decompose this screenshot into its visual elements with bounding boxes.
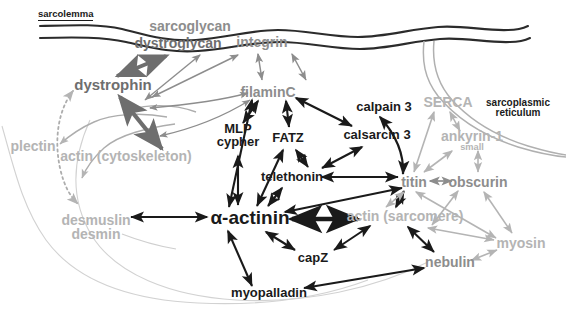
node-actin-sarcomere: actin (sarcomere) [347,209,464,223]
edge-alphaactinin-myopalladin [228,231,252,286]
edge-actinsarcomere-nebulin [408,227,434,252]
node-sarcoglycan: sarcoglycan [149,19,231,33]
node-ankyrin-1-small: ankyrin-1small [441,129,503,153]
edge-filaminc-alphaactinin [229,100,252,207]
edge-integrin-filaminc-right [292,54,306,80]
edge-obscurin-myosin [484,192,512,233]
node-myosin: myosin [496,236,545,250]
edge-filaminc-calsarcin3 [296,98,352,126]
protein-interaction-diagram: sarcolemma sarcoglycan dystroglycan inte… [0,0,566,325]
node-dystroglycan: dystroglycan [134,36,221,50]
node-myopalladin: myopalladin [231,286,307,299]
node-actin-cytoskeleton: actin (cytoskeleton) [60,149,191,163]
node-mlp-cypher: MLP cypher [217,122,260,149]
node-calpain-3: calpain 3 [356,100,412,113]
edge-telethonin-alphaactinin [268,188,282,206]
structure-sarcoplasmic-reticulum: sarcoplasmic reticulum [486,98,550,118]
edge-alphaactinin-capz [266,232,295,250]
edge-nebulin-myopalladin [304,268,424,288]
node-plectin: plectin [10,139,55,153]
edge-integrin-actin-cytoskeleton [152,55,238,97]
node-alpha-actinin: α-actinin [210,208,289,227]
edge-serca-titin [414,112,434,172]
edge-dystrophin-actin-cytoskeleton [120,97,162,149]
node-titin: titin [401,175,427,189]
edge-filaminc-fatz [286,101,289,127]
node-filaminc: filaminC [240,85,295,99]
node-fatz: FATZ [272,131,304,144]
cytoskeleton-link-curves [60,106,196,178]
edge-actinsarcomere-myosin [428,228,494,240]
edge-calpain3-titin [380,117,403,174]
edge-dystroglycan-dystrophin [117,56,166,76]
node-telethonin: telethonin [261,170,323,183]
edge-integrin-filaminc [258,54,262,80]
edge-nebulin-myosin [472,250,497,260]
node-capz: capZ [298,251,328,264]
node-integrin: integrin [236,35,287,49]
node-dystrophin: dystrophin [74,77,152,92]
node-nebulin: nebulin [425,255,475,269]
node-desmuslin-desmin: desmuslin desmin [61,213,130,242]
edge-actinsarcomere-capz [334,226,370,250]
node-serca: SERCA [423,95,472,109]
node-obscurin: obscurin [448,175,507,189]
ankyrin-base: ankyrin-1 [441,129,503,143]
node-calsarcin-3: calsarcin 3 [343,128,410,141]
edge-fatz-telethonin [296,150,308,167]
ankyrin-subscript: small [441,143,503,152]
edge-titin-actinsarcomere-gray [386,192,404,207]
edge-ankyrin-titin [424,151,452,172]
edge-calsarcin3-telethonin [322,147,362,168]
sarcolemma-label: sarcolemma [38,9,93,21]
